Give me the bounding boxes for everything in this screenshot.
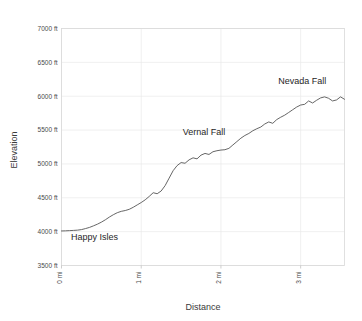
x-tick-label-2: 2 mi: [215, 272, 222, 284]
chart-canvas: 3500 ft4000 ft4500 ft5000 ft5500 ft6000 …: [0, 0, 362, 321]
y-tick-label-5000: 5000 ft: [38, 160, 58, 167]
y-axis-title: Elevation: [9, 131, 19, 168]
y-tick-label-4500: 4500 ft: [38, 194, 58, 201]
y-tick-label-3500: 3500 ft: [38, 262, 58, 269]
y-tick-label-4000: 4000 ft: [38, 228, 58, 235]
annotation-vernal-fall: Vernal Fall: [183, 127, 226, 137]
y-tick-label-5500: 5500 ft: [38, 126, 58, 133]
x-axis-title: Distance: [185, 302, 220, 312]
y-tick-label-6000: 6000 ft: [38, 93, 58, 100]
x-tick-label-0: 0 mi: [56, 272, 63, 284]
x-tick-label-3: 3 mi: [295, 272, 302, 284]
y-tick-label-7000: 7000 ft: [38, 25, 58, 32]
annotation-nevada-fall: Nevada Fall: [278, 76, 326, 86]
x-tick-label-1: 1 mi: [135, 272, 142, 284]
y-tick-label-6500: 6500 ft: [38, 59, 58, 66]
annotation-happy-isles: Happy Isles: [71, 232, 119, 242]
elevation-profile-chart: 3500 ft4000 ft4500 ft5000 ft5500 ft6000 …: [0, 0, 362, 321]
